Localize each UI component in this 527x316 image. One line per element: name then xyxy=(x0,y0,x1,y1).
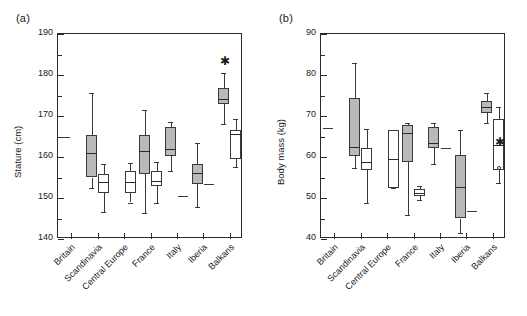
y-axis-tick-label: 70 xyxy=(293,109,316,119)
y-axis-major-tick xyxy=(58,34,64,35)
y-axis-minor-tick xyxy=(321,55,325,56)
whisker-cap-lower xyxy=(352,168,357,169)
box-iqr xyxy=(165,127,176,156)
whisker-lower xyxy=(460,219,461,233)
whisker-cap-upper xyxy=(195,143,200,144)
whisker-lower xyxy=(157,186,158,203)
median-line xyxy=(455,187,466,188)
y-axis-tick-label: 60 xyxy=(293,150,316,160)
x-axis-tick xyxy=(361,233,362,239)
x-axis-tick xyxy=(414,233,415,239)
whisker-cap-upper xyxy=(128,163,133,164)
whisker-lower xyxy=(104,193,105,211)
whisker-cap-lower xyxy=(496,183,501,184)
y-axis-minor-tick xyxy=(58,96,62,97)
whisker-upper xyxy=(130,163,131,171)
whisker-upper xyxy=(236,119,237,130)
y-axis-major-tick xyxy=(321,157,327,158)
y-axis-tick-label: 40 xyxy=(293,232,316,242)
y-axis-major-tick xyxy=(321,34,327,35)
whisker-cap-lower xyxy=(431,164,436,165)
outlier-star-marker: ✱ xyxy=(220,55,230,67)
whisker-cap-upper xyxy=(364,129,369,130)
x-axis-tick xyxy=(124,233,125,239)
whisker-cap-lower xyxy=(154,203,159,204)
whisker-cap-upper xyxy=(221,73,226,74)
x-axis-tick xyxy=(440,233,441,239)
whisker-upper xyxy=(157,162,158,172)
whisker-cap-lower xyxy=(168,171,173,172)
panel-a-plot-area: ✱ xyxy=(57,33,242,238)
x-axis-tick xyxy=(98,233,99,239)
single-value-marker xyxy=(204,184,214,185)
whisker-lower xyxy=(434,148,435,164)
median-line xyxy=(349,147,360,148)
y-axis-major-tick xyxy=(321,75,327,76)
whisker-cap-lower xyxy=(391,188,396,189)
median-line xyxy=(414,193,425,194)
whisker-lower xyxy=(487,113,488,123)
whisker-upper xyxy=(197,143,198,164)
box-iqr xyxy=(402,125,413,161)
box-iqr xyxy=(98,174,109,193)
y-axis-major-tick xyxy=(321,198,327,199)
y-axis-tick-label: 140 xyxy=(30,232,53,242)
box-iqr xyxy=(151,171,162,186)
x-axis-tick xyxy=(151,233,152,239)
whisker-cap-upper xyxy=(142,110,147,111)
whisker-cap-upper xyxy=(431,123,436,124)
median-line xyxy=(139,151,150,152)
box-iqr xyxy=(139,135,150,174)
whisker-cap-upper xyxy=(352,63,357,64)
box-iqr xyxy=(218,88,229,104)
y-axis-tick-label: 190 xyxy=(30,27,53,37)
whisker-upper xyxy=(145,110,146,135)
panel-a: (a) Stature (cm) ✱ 140150160170180190Bri… xyxy=(0,0,264,316)
x-axis-tick xyxy=(71,233,72,239)
whisker-lower xyxy=(236,159,237,166)
whisker-upper xyxy=(92,93,93,135)
y-axis-major-tick xyxy=(58,157,64,158)
whisker-upper xyxy=(460,130,461,155)
panel-b-plot-area: ✱ xyxy=(320,33,505,238)
y-axis-minor-tick xyxy=(58,219,62,220)
whisker-upper xyxy=(104,164,105,175)
whisker-cap-upper xyxy=(233,119,238,120)
median-line xyxy=(192,173,203,174)
median-line xyxy=(218,99,229,100)
whisker-cap-upper xyxy=(154,162,159,163)
median-line xyxy=(151,181,162,182)
median-line xyxy=(165,149,176,150)
y-axis-major-tick xyxy=(58,116,64,117)
panel-b-label: (b) xyxy=(279,12,293,24)
whisker-lower xyxy=(224,104,225,124)
median-line xyxy=(428,143,439,144)
whisker-cap-upper xyxy=(496,107,501,108)
whisker-upper xyxy=(367,129,368,148)
y-axis-minor-tick xyxy=(321,219,325,220)
whisker-cap-upper xyxy=(405,123,410,124)
whisker-cap-lower xyxy=(128,203,133,204)
median-line xyxy=(98,182,109,183)
single-value-marker xyxy=(178,196,188,197)
whisker-cap-upper xyxy=(458,130,463,131)
y-axis-major-tick xyxy=(58,239,64,240)
whisker-cap-lower xyxy=(233,167,238,168)
y-axis-tick-label: 50 xyxy=(293,191,316,201)
whisker-cap-upper xyxy=(168,122,173,123)
y-axis-tick-label: 90 xyxy=(293,27,316,37)
whisker-upper xyxy=(224,73,225,87)
outlier-circle-marker xyxy=(497,166,501,170)
whisker-cap-lower xyxy=(364,203,369,204)
panel-b-y-axis-title: Body mass (kg) xyxy=(275,119,286,185)
whisker-lower xyxy=(499,170,500,184)
single-value-marker xyxy=(467,211,477,212)
whisker-lower xyxy=(367,170,368,203)
median-line xyxy=(481,107,492,108)
whisker-upper xyxy=(487,93,488,101)
y-axis-major-tick xyxy=(58,198,64,199)
figure-root: (a) Stature (cm) ✱ 140150160170180190Bri… xyxy=(0,0,527,316)
outlier-star-marker: ✱ xyxy=(495,136,505,148)
whisker-cap-lower xyxy=(417,200,422,201)
x-axis-tick xyxy=(334,233,335,239)
